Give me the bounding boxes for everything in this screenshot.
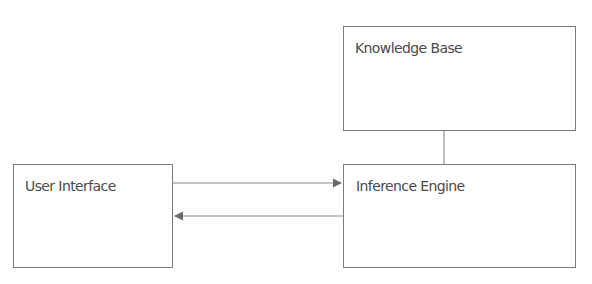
inference-engine-label: Inference Engine	[356, 178, 465, 194]
knowledge-base-box: Knowledge Base	[343, 26, 576, 131]
inference-engine-box: Inference Engine	[343, 164, 576, 268]
knowledge-base-label: Knowledge Base	[355, 40, 462, 56]
user-interface-label: User Interface	[25, 178, 116, 194]
user-interface-box: User Interface	[13, 164, 173, 268]
